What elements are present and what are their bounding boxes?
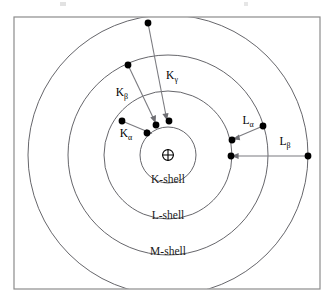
- electron-dot: [145, 20, 152, 27]
- electron-dot: [144, 130, 151, 137]
- electron-dot: [119, 118, 126, 125]
- shell-label-k: K-shell: [151, 173, 185, 185]
- electron-dot: [153, 122, 160, 129]
- shell-label-l: L-shell: [152, 209, 185, 221]
- electron-dot: [229, 137, 236, 144]
- electron-dot: [125, 62, 132, 69]
- electron-dot: [166, 118, 173, 125]
- nucleus-plus-symbol: [162, 149, 174, 161]
- figure-root: K-shell L-shell M-shell Kα Kβ Kγ Lα: [0, 0, 334, 306]
- ghost-caption-artifacts: [60, 2, 248, 6]
- electron-dot: [305, 153, 312, 160]
- electron-dot: [228, 153, 235, 160]
- shell-label-m: M-shell: [150, 245, 186, 257]
- atomic-shell-diagram: K-shell L-shell M-shell Kα Kβ Kγ Lα: [0, 0, 334, 306]
- electron-dot: [260, 123, 267, 130]
